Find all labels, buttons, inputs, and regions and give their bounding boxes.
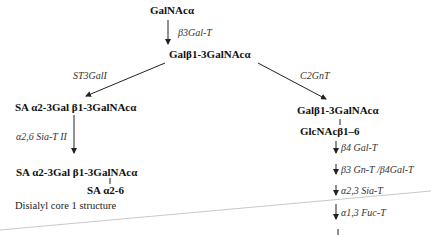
node-core1: Galβ1-3GalNAcα [169, 48, 251, 60]
node-core2-main: Galβ1-3GalNAcα [297, 104, 379, 116]
node-disialyl-branch: SA α2-6 [87, 184, 124, 196]
caption-disialyl-core1: Disialyl core 1 structure [15, 200, 116, 212]
glycosylation-pathway-diagram: GalNAcα β3Gal-T Galβ1-3GalNAcα ST3GalI C… [0, 0, 431, 235]
enzyme-a13fuct: α1,3 Fuc-T [341, 207, 386, 218]
enzyme-a23siat: α2,3 Sia-T [341, 185, 383, 196]
enzyme-st3gal1: ST3GalI [73, 70, 107, 81]
node-core2-branch: GlcNAcβ1–6 [300, 125, 360, 137]
enzyme-b3gnt-b4galt: β3 Gn-T /β4Gal-T [341, 164, 414, 175]
arrow-c2gnt [258, 63, 326, 99]
enzyme-c2gnt: C2GnT [300, 70, 329, 81]
enzyme-a26siat2: α2,6 Sia-T II [16, 131, 67, 142]
node-sialyl-core1: SA α2-3Gal β1-3GalNAcα [15, 101, 136, 113]
node-disialyl-main: SA α2-3Gal β1-3GalNAcα [16, 166, 137, 178]
enzyme-b4galt: β4 Gal-T [341, 142, 377, 153]
node-galnac: GalNAcα [150, 4, 194, 16]
enzyme-b3galt: β3Gal-T [178, 27, 212, 38]
